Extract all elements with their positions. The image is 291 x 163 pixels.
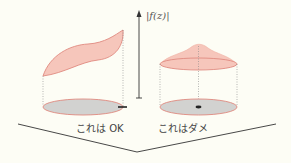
bottom-chevron xyxy=(18,124,276,152)
left-base-disk xyxy=(43,99,127,115)
right-base-disk xyxy=(160,99,237,115)
axis-label-abs-f: |f(z)| xyxy=(146,10,170,21)
vertical-axis-arrow xyxy=(136,10,142,98)
caption-ok: これは OK xyxy=(76,120,124,135)
caption-not-ok: これはダメ xyxy=(158,120,208,135)
diagram-canvas xyxy=(0,0,291,163)
left-surface xyxy=(43,30,123,76)
